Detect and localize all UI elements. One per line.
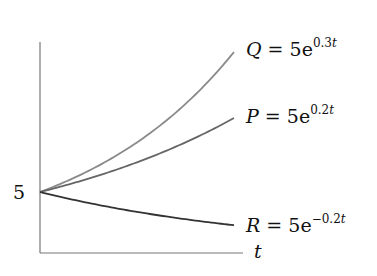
curve-q xyxy=(40,52,234,192)
y-tick-label-5: 5 xyxy=(13,181,25,203)
curve-r xyxy=(40,192,234,225)
x-axis-label: t xyxy=(254,240,262,262)
series-label-r: R = 5e−0.2t xyxy=(246,214,346,236)
series-label-q: Q = 5e0.3t xyxy=(246,38,337,60)
series-label-p: P = 5e0.2t xyxy=(246,105,334,127)
